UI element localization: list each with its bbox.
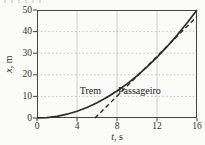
x-axis-label: t, s — [37, 131, 197, 142]
kinematics-chart: x, m t, s 010203040500481216TremPassagei… — [0, 0, 205, 145]
y-tick-label: 40 — [12, 26, 32, 37]
plot-canvas — [37, 10, 197, 118]
x-tick-label: 16 — [187, 121, 205, 132]
y-tick-label: 10 — [12, 91, 32, 102]
x-tick-label: 8 — [107, 121, 127, 132]
x-axis-unit: , s — [114, 131, 123, 142]
y-tick-label: 50 — [12, 5, 32, 16]
annotation-passageiro: Passageiro — [118, 85, 161, 96]
x-tick-label: 12 — [147, 121, 167, 132]
cropped-text-artifact — [4, 0, 44, 3]
y-tick-label: 20 — [12, 69, 32, 80]
y-tick-label: 30 — [12, 48, 32, 59]
x-tick-label: 4 — [67, 121, 87, 132]
annotation-trem: Trem — [80, 85, 101, 96]
x-tick-label: 0 — [27, 121, 47, 132]
